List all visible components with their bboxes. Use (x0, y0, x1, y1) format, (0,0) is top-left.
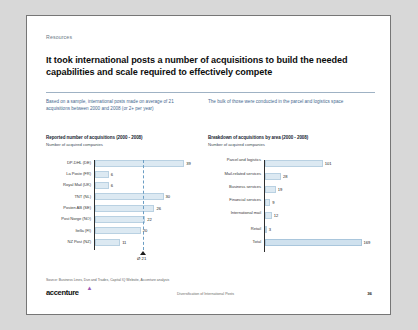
bar-category-label: Financial services (208, 198, 261, 203)
bar (95, 171, 109, 178)
subtitle-left: Based on a sample, international posts m… (46, 99, 198, 112)
chart-panel-right: Breakdown of acquisitions by area (2000 … (208, 135, 376, 258)
bar (95, 160, 184, 167)
bar (265, 160, 323, 167)
chart-panel-left: Reported number of acquisitions (2000 - … (46, 135, 206, 256)
chart-left-subtitle: Number of acquired companies (46, 142, 206, 147)
bar-category-label: Parcel and logistics (208, 158, 261, 163)
bar (95, 205, 154, 212)
bar-category-label: Posten AB (SE) (46, 206, 91, 211)
bar-value-label: 19 (278, 186, 283, 193)
bar-category-label: La Poste (FR) (46, 172, 91, 177)
chart-left-title: Reported number of acquisitions (2000 - … (46, 135, 206, 140)
chart-right-subtitle: Number of acquired companies (208, 142, 376, 147)
bar-value-label: 9 (272, 199, 274, 206)
bar-category-label: Business services (208, 185, 261, 190)
bar-value-label: 22 (147, 216, 152, 223)
bar-value-label: 3 (269, 226, 271, 233)
footer-center-text: Diversification of International Posts (177, 292, 234, 296)
bar-category-label: International mail (208, 211, 261, 216)
bar-value-label: 39 (186, 160, 191, 167)
bar-value-label: 26 (156, 205, 161, 212)
bar (265, 186, 276, 193)
bar-category-label: Post Norge (NO) (46, 217, 91, 222)
average-reference-line (143, 160, 144, 250)
bar (265, 212, 272, 219)
page-title: It took international posts a number of … (46, 54, 376, 79)
bar-category-label: Retail (208, 227, 261, 232)
slide-canvas: Resources It took international posts a … (26, 15, 391, 315)
chart-right-plot: Parcel and logistics101Mail-related serv… (208, 160, 376, 258)
bar-category-label: Mail-related services (208, 172, 261, 177)
eyebrow-label: Resources (46, 34, 72, 40)
bar-value-label: 28 (283, 173, 288, 180)
bar (95, 239, 120, 246)
bar-category-label: NZ Post (NZ) (46, 240, 91, 245)
bar-category-label: DP-DHL (DE) (46, 161, 91, 166)
bar (95, 227, 141, 234)
bar (95, 216, 145, 223)
bar (265, 173, 281, 180)
title-divider (46, 92, 375, 93)
source-note: Source: Business Lines, Dun and Trades, … (46, 278, 169, 282)
chart-right-title: Breakdown of acquisitions by area (2000 … (208, 135, 376, 140)
bar-value-label: 6 (111, 171, 113, 178)
logo-arrow-icon: ▲ (87, 285, 93, 291)
average-label: Ø 21 (137, 256, 146, 261)
bar-value-label: 101 (325, 160, 332, 167)
bar-category-label: TNT (NL) (46, 195, 91, 200)
page-number: 36 (367, 291, 372, 296)
bar (95, 182, 109, 189)
bar-value-label: 6 (111, 182, 113, 189)
logo-text: accenture (46, 288, 79, 297)
bar-category-label: Itella (FI) (46, 229, 91, 234)
bar (265, 239, 362, 246)
subtitle-right: The bulk of those were conducted in the … (208, 99, 358, 106)
bar (95, 193, 164, 200)
bar-value-label: 11 (122, 239, 126, 246)
accenture-logo: accenture ▲ (46, 288, 79, 297)
bar-value-label: 30 (166, 193, 171, 200)
bar-category-label: Royal Mail (UK) (46, 183, 91, 188)
bar-value-label: 169 (364, 239, 371, 246)
bar (265, 199, 270, 206)
bar-category-label: Total (208, 240, 261, 245)
average-marker-icon (140, 251, 146, 255)
chart-left-plot: DP-DHL (DE)39La Poste (FR)6Royal Mail (U… (46, 160, 206, 256)
bar-value-label: 12 (274, 212, 279, 219)
bar (265, 226, 267, 233)
